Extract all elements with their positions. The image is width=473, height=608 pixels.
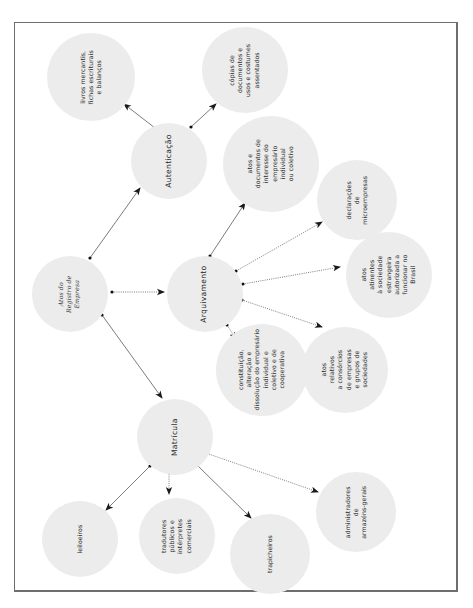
node-atos-atinentes: atos atinentes à sociedade estrangeira a… xyxy=(346,232,432,318)
node-atos-registro-empresa: Atos do Registro de Empresa xyxy=(32,256,108,332)
node-label: Arquivamento xyxy=(201,265,209,322)
node-label: Matrícula xyxy=(171,418,179,456)
node-label: cópias de documentos e usos e costumes a… xyxy=(229,43,262,96)
node-label: atos e documentos de interesse do empres… xyxy=(246,139,295,188)
node-tradutores: tradutores públicos e intérpretes comerc… xyxy=(139,498,215,574)
node-constituicao: constituição, alteração e dissolução do … xyxy=(216,324,308,416)
node-label: trapicheiros xyxy=(266,535,274,573)
node-label: Autenticação xyxy=(165,134,173,187)
node-label: constituição, alteração e dissolução do … xyxy=(237,329,286,411)
node-label: declarações de microempresas xyxy=(345,176,370,225)
node-atos-relativos: atos relativos a consórcios de empresas … xyxy=(302,327,388,413)
node-leiloeiros: leiloeiros xyxy=(42,501,118,577)
node-administradores: administradores de armazéns-gerais xyxy=(316,472,396,552)
node-label: atos atinentes à sociedade estrangeira a… xyxy=(360,255,417,295)
node-label: tradutores públicos e intérpretes comerc… xyxy=(161,518,194,553)
node-label: administradores de armazéns-gerais xyxy=(344,485,369,538)
node-autenticacao: Autenticação xyxy=(131,123,207,199)
diagram-title: Atos do Registro de Empresa xyxy=(58,275,83,312)
node-label: atos relativos a consórcios de empresas … xyxy=(320,349,369,390)
node-matricula: Matrícula xyxy=(137,399,213,475)
node-trapicheiros: trapicheiros xyxy=(230,514,310,594)
node-arquivamento: Arquivamento xyxy=(167,256,243,332)
node-livros-mercantis: livros mercantis, fichas escriturais e b… xyxy=(47,33,135,121)
node-copias-documentos: cópias de documentos e usos e costumes a… xyxy=(202,27,288,113)
node-label: livros mercantis, fichas escriturais e b… xyxy=(79,50,104,104)
cropped-header-text xyxy=(0,0,473,4)
node-label: leiloeiros xyxy=(76,525,84,554)
node-declaracoes-microempresas: declarações de microempresas xyxy=(317,160,397,240)
node-atos-documentos: atos e documentos de interesse do empres… xyxy=(223,116,319,212)
